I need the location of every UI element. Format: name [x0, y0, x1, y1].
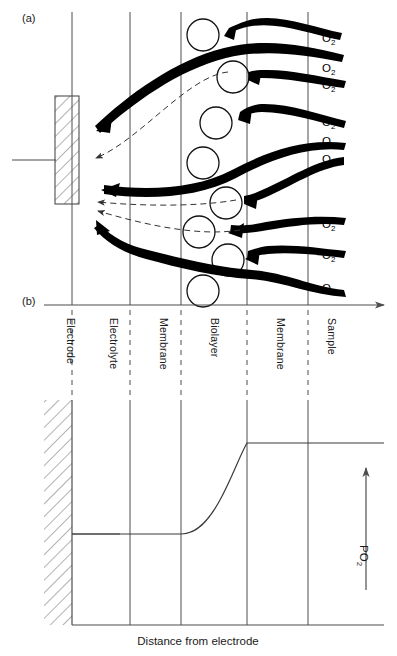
- region-label-electrode: Electrode: [65, 318, 77, 364]
- cell-circle: [200, 107, 232, 139]
- oxygen-electrode-diagram: (a): [0, 0, 397, 656]
- dashed-arrow-middle: [98, 200, 236, 205]
- panel-b: (b) Electrode Electrolyte Membrane Biola…: [22, 295, 384, 647]
- panel-b-electrode-wall: [44, 400, 120, 625]
- cell-circle: [187, 19, 219, 51]
- electrode-hatch-fill: [55, 96, 79, 204]
- panel-a: (a): [12, 12, 346, 307]
- cell-circle: [183, 216, 215, 248]
- electrode-hatch-fill-b: [44, 400, 72, 625]
- region-label-membrane-1: Membrane: [158, 318, 170, 370]
- po2-profile-curve: [72, 443, 384, 534]
- panel-b-tag: (b): [22, 295, 35, 307]
- cell-circle: [217, 61, 249, 93]
- panel-a-tag: (a): [22, 12, 35, 24]
- region-label-membrane-2: Membrane: [275, 318, 287, 370]
- region-label-biolayer: Biolayer: [209, 318, 221, 358]
- po2-axis-label: PO2: [355, 545, 370, 567]
- region-boundary-dashes: [72, 310, 308, 400]
- x-axis-label: Distance from electrode: [137, 635, 258, 647]
- flow-arrowhead: [224, 25, 237, 40]
- o2-label: O2: [322, 62, 336, 77]
- region-label-sample: Sample: [326, 318, 338, 355]
- panel-b-region-lines: [130, 400, 308, 625]
- figure-root: (a): [0, 0, 397, 656]
- region-labels: Electrode Electrolyte Membrane Biolayer …: [65, 318, 338, 370]
- cell-circle: [187, 147, 219, 179]
- flow-stream-upper-long: [95, 43, 344, 133]
- dashed-arrow-lower: [98, 211, 240, 232]
- region-label-electrolyte: Electrolyte: [108, 318, 120, 369]
- electrode-body: [12, 96, 79, 204]
- cell-circle: [187, 275, 219, 307]
- dashed-diffusion-arrows: [96, 72, 240, 232]
- oxygen-labels: O2 O2 O2 O2 O2 O2 O2 O2 O2: [322, 32, 336, 297]
